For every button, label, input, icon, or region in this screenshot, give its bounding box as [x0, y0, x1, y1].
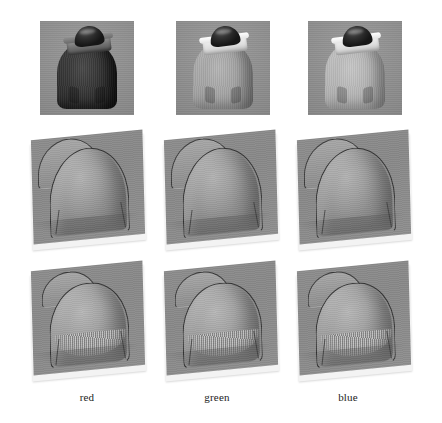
surface-front-wave [31, 342, 149, 379]
surface-front-wave [297, 211, 415, 248]
specular-highlight [215, 28, 231, 35]
surface-front-wave [164, 342, 282, 379]
surface-plate [31, 130, 145, 245]
surface-plate [164, 130, 278, 245]
surface-plate [164, 261, 278, 376]
figure-cell-surface-green-detailed [155, 258, 295, 390]
figure-cell-surface-blue-smooth [288, 127, 428, 259]
surface-plate [297, 261, 411, 376]
vessel-foot-left [205, 86, 215, 104]
vessel-foot-right [231, 86, 241, 104]
surface-front-wave [297, 342, 415, 379]
column-label-blue: blue [288, 391, 408, 403]
column-label-red: red [27, 391, 147, 403]
surface-plate [31, 261, 145, 376]
surface-front-wave [164, 211, 282, 248]
vessel-foot-right [95, 86, 105, 104]
figure-cell-surface-red-smooth [22, 127, 162, 259]
figure-cell-input-green [176, 21, 270, 115]
figure-cell-surface-green-smooth [155, 127, 295, 259]
column-label-green: green [157, 391, 277, 403]
figure-cell-surface-blue-detailed [288, 258, 428, 390]
specular-highlight [347, 28, 363, 35]
specular-highlight [79, 28, 95, 35]
vessel-foot-left [69, 86, 79, 104]
surface-front-wave [31, 211, 149, 248]
vessel-foot-right [363, 86, 373, 104]
figure-cell-surface-red-detailed [22, 258, 162, 390]
figure-cell-input-blue [308, 21, 402, 115]
vessel-foot-left [337, 86, 347, 104]
figure-panel-grid: red green blue [0, 0, 442, 423]
surface-plate [297, 130, 411, 245]
figure-cell-input-red [40, 21, 134, 115]
